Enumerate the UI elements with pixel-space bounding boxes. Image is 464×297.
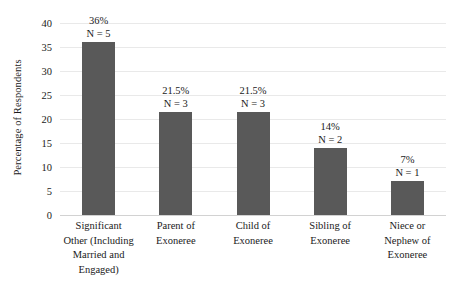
bar-count-label: N = 3 (239, 97, 266, 110)
gridline (60, 47, 446, 48)
bar-count-label: N = 5 (87, 27, 111, 40)
category-label-line: Significant (63, 219, 133, 234)
bar-chart: Percentage of Respondents 40353025201510… (0, 0, 464, 297)
bar-count-label: N = 1 (395, 166, 419, 179)
bar[interactable] (391, 181, 424, 215)
bar[interactable] (82, 42, 115, 215)
x-axis-category-label: Parent ofExoneree (156, 219, 196, 248)
x-axis-category-label: Sibling ofExoneree (309, 219, 351, 248)
y-axis-tick-label: 5 (47, 186, 52, 197)
category-label-line: Sibling of (309, 219, 351, 234)
bar-value-label: 21.5%N = 3 (239, 84, 266, 110)
category-label-line: Child of (233, 219, 273, 234)
plot-area: 36%N = 521.5%N = 321.5%N = 314%N = 27%N … (60, 23, 446, 215)
bar[interactable] (237, 112, 270, 215)
gridline (60, 23, 446, 24)
bar-percent-label: 36% (87, 14, 111, 27)
bar-value-label: 7%N = 1 (395, 153, 419, 179)
category-label-line: Exoneree (309, 234, 351, 249)
y-axis-tick-label: 30 (42, 66, 53, 77)
category-label-line: Nephew of (384, 234, 430, 249)
y-axis-tick-label: 0 (47, 210, 52, 221)
x-axis-category-label: Niece orNephew ofExoneree (384, 219, 430, 263)
category-label-line: Engaged) (63, 263, 133, 278)
bar[interactable] (314, 148, 347, 215)
bar-count-label: N = 2 (318, 133, 342, 146)
bar-percent-label: 14% (318, 120, 342, 133)
y-axis-tick-label: 40 (42, 18, 53, 29)
category-label-line: Exoneree (233, 234, 273, 249)
gridline (60, 215, 446, 216)
bar-percent-label: 21.5% (162, 84, 189, 97)
bar[interactable] (159, 112, 192, 215)
category-label-line: Exoneree (384, 248, 430, 263)
y-axis-tick-label: 20 (42, 114, 53, 125)
bar-value-label: 14%N = 2 (318, 120, 342, 146)
category-label-line: Parent of (156, 219, 196, 234)
category-label-line: Exoneree (156, 234, 196, 249)
bar-value-label: 21.5%N = 3 (162, 84, 189, 110)
y-axis-tick-label: 25 (42, 90, 53, 101)
bar-value-label: 36%N = 5 (87, 14, 111, 40)
category-label-line: Other (Including (63, 234, 133, 249)
gridline (60, 71, 446, 72)
category-label-line: Niece or (384, 219, 430, 234)
y-axis-tick-label: 35 (42, 42, 53, 53)
x-axis-category-labels: SignificantOther (IncludingMarried andEn… (60, 219, 446, 297)
y-axis-tick-label: 10 (42, 162, 53, 173)
bar-percent-label: 7% (395, 153, 419, 166)
bar-percent-label: 21.5% (239, 84, 266, 97)
bar-count-label: N = 3 (162, 97, 189, 110)
y-axis-tick-label: 15 (42, 138, 53, 149)
category-label-line: Married and (63, 248, 133, 263)
y-axis-tick-labels: 4035302520151050 (0, 0, 56, 297)
x-axis-category-label: SignificantOther (IncludingMarried andEn… (63, 219, 133, 277)
x-axis-category-label: Child ofExoneree (233, 219, 273, 248)
